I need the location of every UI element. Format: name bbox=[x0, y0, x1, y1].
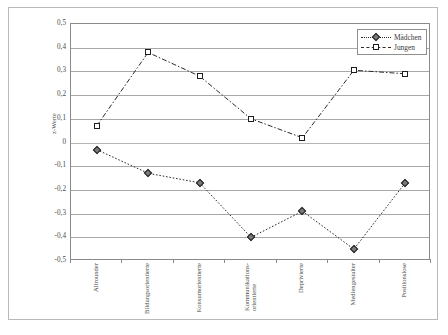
plot-area bbox=[70, 23, 430, 260]
data-point-diamond bbox=[195, 179, 203, 187]
x-axis-tick: Konsumorientierte bbox=[192, 263, 206, 319]
y-axis-tick-label: 0,5 bbox=[57, 19, 66, 27]
y-axis-tick-label: -0,5 bbox=[55, 256, 66, 264]
x-axis-tick-labels: AllrounderBildungsorientierteKonsumorien… bbox=[70, 263, 430, 319]
x-axis-tick: Kommunikations-orientierte bbox=[243, 263, 257, 319]
legend-label-maedchen: Mädchen bbox=[394, 33, 422, 42]
x-axis-tick: Bildungsorientierte bbox=[140, 263, 154, 319]
data-point-square bbox=[145, 49, 151, 55]
gridline bbox=[71, 166, 429, 167]
data-point-square bbox=[197, 73, 203, 79]
data-point-square bbox=[248, 116, 254, 122]
chart-area: z-Werte 0,50,40,30,20,10-0,1-0,2-0,3-0,4… bbox=[9, 8, 439, 321]
x-axis-tick-label: Positionslose bbox=[401, 263, 408, 298]
data-point-diamond bbox=[92, 145, 100, 153]
x-axis-tickmark bbox=[430, 259, 431, 263]
legend-marker-square bbox=[361, 42, 391, 52]
gridline bbox=[71, 214, 429, 215]
data-point-square bbox=[94, 123, 100, 129]
x-axis-tick: Allrounder bbox=[89, 263, 103, 319]
series-lines bbox=[71, 24, 430, 260]
data-point-square bbox=[299, 135, 305, 141]
x-axis-tick-label: Bildungsorientierte bbox=[143, 263, 150, 314]
data-point-diamond bbox=[144, 169, 152, 177]
data-point-square bbox=[351, 67, 357, 73]
legend-item-jungen: Jungen bbox=[361, 42, 422, 52]
x-axis-tick-label: Deprivierte bbox=[298, 263, 305, 293]
x-axis-tick-label: Allrounder bbox=[92, 263, 99, 292]
x-axis-tick-label: Konsumorientierte bbox=[195, 263, 202, 312]
y-axis-tick-label: 0,1 bbox=[57, 114, 66, 122]
data-point-diamond bbox=[247, 233, 255, 241]
legend-marker-diamond bbox=[361, 32, 391, 42]
figure-frame: z-Werte 0,50,40,30,20,10-0,1-0,2-0,3-0,4… bbox=[8, 7, 438, 320]
gridline bbox=[71, 143, 429, 144]
gridline bbox=[71, 71, 429, 72]
y-axis-tick-label: -0,2 bbox=[55, 185, 66, 193]
y-axis-tick-label: 0,3 bbox=[57, 66, 66, 74]
y-axis-tick-label: -0,3 bbox=[55, 209, 66, 217]
x-axis-tick-label: Mediengestalter bbox=[349, 263, 356, 305]
y-axis-tick-label: 0,4 bbox=[57, 43, 66, 51]
y-axis-tick-label: -0,4 bbox=[55, 232, 66, 240]
x-axis-tick: Positionslose bbox=[397, 263, 411, 319]
gridline bbox=[71, 190, 429, 191]
legend-item-maedchen: Mädchen bbox=[361, 32, 422, 42]
x-axis-tick-label: Kommunikations-orientierte bbox=[243, 263, 258, 311]
legend: Mädchen Jungen bbox=[357, 29, 427, 55]
y-axis-tick-label: 0,2 bbox=[57, 90, 66, 98]
screenshot-root: z-Werte 0,50,40,30,20,10-0,1-0,2-0,3-0,4… bbox=[0, 0, 448, 335]
legend-label-jungen: Jungen bbox=[394, 43, 415, 52]
y-axis-tick-label: 0 bbox=[62, 138, 66, 146]
y-axis-tick-labels: 0,50,40,30,20,10-0,1-0,2-0,3-0,4-0,5 bbox=[35, 23, 66, 260]
gridline bbox=[71, 95, 429, 96]
data-point-diamond bbox=[350, 245, 358, 253]
y-axis-tick-label: -0,1 bbox=[55, 161, 66, 169]
data-point-diamond bbox=[401, 179, 409, 187]
x-axis-tick: Deprivierte bbox=[294, 263, 308, 319]
x-axis-tick: Mediengestalter bbox=[346, 263, 360, 319]
data-point-square bbox=[402, 71, 408, 77]
